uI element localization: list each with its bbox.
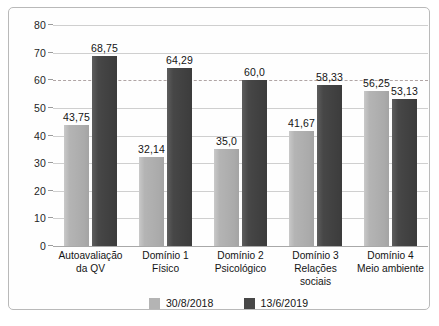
- y-axis-tick-label: 20: [34, 185, 46, 197]
- bar-value-label: 43,75: [63, 111, 90, 123]
- bar[interactable]: [214, 149, 239, 246]
- bar-container: 41,67: [289, 25, 314, 246]
- bar-value-label: 58,33: [316, 71, 343, 83]
- bar-container: 35,0: [214, 25, 239, 246]
- legend-label: 13/6/2019: [261, 297, 309, 309]
- bar-value-label: 64,29: [166, 54, 193, 66]
- bars-layer: 43,7568,7532,1464,2935,060,041,6758,3356…: [53, 25, 428, 246]
- bar[interactable]: [64, 125, 89, 246]
- bar-group: 56,2553,13: [353, 25, 428, 246]
- bar[interactable]: [289, 131, 314, 246]
- y-axis-tick-label: 50: [34, 102, 46, 114]
- legend-color-swatch: [149, 298, 160, 309]
- bar[interactable]: [242, 80, 267, 246]
- legend-color-swatch: [244, 298, 255, 309]
- y-axis-tick-label: 0: [40, 240, 46, 252]
- bar-group: 43,7568,75: [53, 25, 128, 246]
- category-label: Autoavaliaçãoda QV: [53, 249, 128, 289]
- legend-item[interactable]: 30/8/2018: [149, 297, 214, 309]
- y-axis-tick-label: 70: [34, 47, 46, 59]
- chart-legend: 30/8/201813/6/2019: [9, 297, 439, 309]
- y-axis-tick-label: 10: [34, 212, 46, 224]
- category-label: Domínio 3Relações sociais: [278, 249, 353, 289]
- legend-label: 30/8/2018: [166, 297, 214, 309]
- category-axis: Autoavaliaçãoda QVDomínio 1FísicoDomínio…: [53, 249, 428, 289]
- bar-container: 43,75: [64, 25, 89, 246]
- gridline: [53, 246, 428, 247]
- category-label: Domínio 2Psicológico: [203, 249, 278, 289]
- bar-value-label: 60,0: [244, 66, 265, 78]
- bar-container: 53,13: [392, 25, 417, 246]
- y-axis-tick-label: 60: [34, 74, 46, 86]
- bar-container: 60,0: [242, 25, 267, 246]
- bar-container: 56,25: [364, 25, 389, 246]
- bar-value-label: 68,75: [91, 42, 118, 54]
- category-label: Domínio 4Meio ambiente: [353, 249, 428, 289]
- bar-group: 41,6758,33: [278, 25, 353, 246]
- y-axis-tick-label: 40: [34, 130, 46, 142]
- bar[interactable]: [167, 68, 192, 246]
- bar-value-label: 35,0: [216, 135, 237, 147]
- bar[interactable]: [92, 56, 117, 246]
- bar-value-label: 41,67: [288, 117, 315, 129]
- bar-container: 64,29: [167, 25, 192, 246]
- bar-container: 32,14: [139, 25, 164, 246]
- y-axis-tick-label: 80: [34, 19, 46, 31]
- bar-container: 58,33: [317, 25, 342, 246]
- y-axis-tick-label: 30: [34, 157, 46, 169]
- category-label: Domínio 1Físico: [128, 249, 203, 289]
- plot-area: 01020304050607080 43,7568,7532,1464,2935…: [53, 25, 428, 246]
- bar[interactable]: [364, 91, 389, 246]
- bar-value-label: 56,25: [363, 77, 390, 89]
- bar[interactable]: [392, 99, 417, 246]
- bar-value-label: 32,14: [138, 143, 165, 155]
- bar-group: 35,060,0: [203, 25, 278, 246]
- bar-group: 32,1464,29: [128, 25, 203, 246]
- chart-frame: 01020304050607080 43,7568,7532,1464,2935…: [8, 7, 430, 310]
- bar-container: 68,75: [92, 25, 117, 246]
- bar[interactable]: [139, 157, 164, 246]
- bar[interactable]: [317, 85, 342, 246]
- legend-item[interactable]: 13/6/2019: [244, 297, 309, 309]
- bar-value-label: 53,13: [391, 85, 418, 97]
